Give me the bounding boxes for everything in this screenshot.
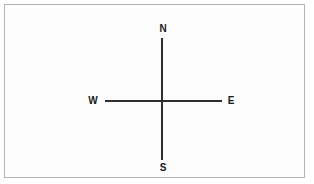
compass-diagram-canvas: N S W E: [0, 0, 314, 184]
north-south-axis-line: [161, 38, 163, 160]
cardinal-label-north: N: [158, 24, 168, 34]
cardinal-label-west: W: [87, 96, 99, 106]
diagram-frame-border: N S W E: [4, 4, 305, 178]
cardinal-label-south: S: [158, 163, 168, 173]
west-east-axis-line: [105, 100, 222, 102]
cardinal-label-east: E: [226, 96, 236, 106]
